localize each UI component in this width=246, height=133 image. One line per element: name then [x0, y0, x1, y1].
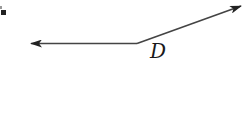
upper-right-ray — [137, 6, 241, 44]
angle-diagram: D — [0, 0, 246, 133]
angle-rays — [0, 0, 246, 133]
vertex-label: D — [150, 41, 166, 61]
